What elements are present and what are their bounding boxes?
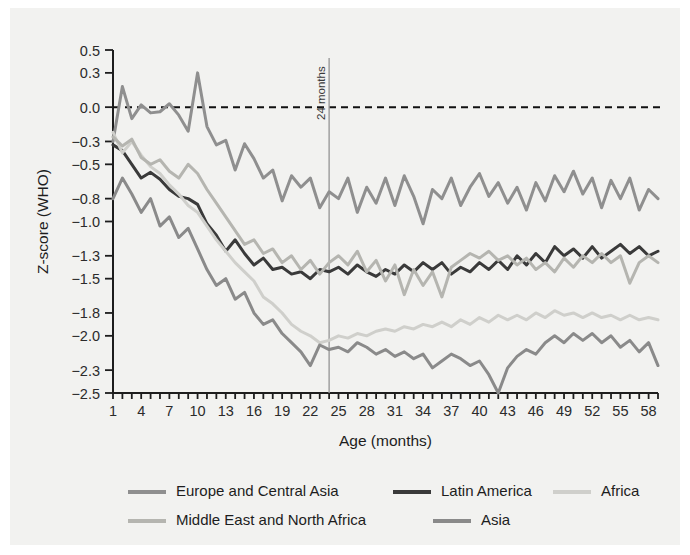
x-tick-label: 19: [274, 403, 290, 419]
legend-label: Latin America: [441, 482, 533, 499]
y-tick-label: −2.5: [71, 386, 100, 402]
x-tick-label: 10: [189, 403, 205, 419]
y-tick-label: −1.5: [71, 271, 100, 287]
y-tick-label: −1.3: [71, 248, 100, 264]
x-tick-label: 43: [500, 403, 516, 419]
x-tick-label: 58: [641, 403, 657, 419]
x-tick-label: 13: [218, 403, 234, 419]
legend-label: Asia: [481, 511, 511, 528]
y-tick-label: 0.0: [80, 100, 100, 116]
x-tick-label: 40: [471, 403, 487, 419]
y-tick-label: −2.0: [71, 328, 100, 344]
legend-label: Africa: [601, 482, 640, 499]
x-tick-label: 4: [137, 403, 145, 419]
legend-item[interactable]: Asia: [433, 511, 511, 528]
x-tick-label: 52: [584, 403, 600, 419]
annotation-label: 24 months: [315, 66, 327, 120]
x-axis-title: Age (months): [339, 432, 432, 449]
y-tick-label: −0.8: [71, 191, 100, 207]
legend-label: Middle East and North Africa: [176, 511, 367, 528]
line-chart-svg: 0.50.30.0−0.3−0.5−0.8−1.0−1.3−1.5−1.8−2.…: [10, 8, 680, 545]
x-tick-label: 1: [109, 403, 117, 419]
series-line-middle-east-and-north-africa: [113, 137, 658, 297]
legend-item[interactable]: Latin America: [393, 482, 533, 499]
x-tick-label: 25: [330, 403, 346, 419]
y-tick-label: −0.3: [71, 134, 100, 150]
x-tick-label: 46: [528, 403, 544, 419]
series-line-africa: [113, 132, 658, 342]
legend-item[interactable]: Europe and Central Asia: [128, 482, 339, 499]
x-tick-label: 7: [165, 403, 173, 419]
y-tick-label: 0.3: [80, 65, 100, 81]
legend-item[interactable]: Africa: [553, 482, 640, 499]
x-tick-label: 34: [415, 403, 431, 419]
x-tick-label: 55: [612, 403, 628, 419]
y-tick-label: −1.0: [71, 214, 100, 230]
x-tick-label: 22: [302, 403, 318, 419]
legend-item[interactable]: Middle East and North Africa: [128, 511, 367, 528]
x-tick-label: 31: [387, 403, 403, 419]
x-tick-label: 37: [443, 403, 459, 419]
y-tick-label: −0.5: [71, 157, 100, 173]
x-tick-label: 16: [246, 403, 262, 419]
y-axis-title: Z-score (WHO): [34, 169, 51, 274]
y-tick-label: −2.3: [71, 363, 100, 379]
legend-label: Europe and Central Asia: [176, 482, 339, 499]
chart-plot: 0.50.30.0−0.3−0.5−0.8−1.0−1.3−1.5−1.8−2.…: [10, 8, 680, 545]
x-tick-label: 49: [556, 403, 572, 419]
x-tick-label: 28: [359, 403, 375, 419]
y-tick-label: 0.5: [80, 43, 100, 59]
figure-panel: 0.50.30.0−0.3−0.5−0.8−1.0−1.3−1.5−1.8−2.…: [10, 8, 680, 545]
y-tick-label: −1.8: [71, 305, 100, 321]
